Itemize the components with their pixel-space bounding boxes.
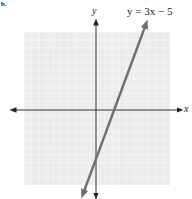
coordinate-plane <box>0 0 192 199</box>
part-label: b. <box>1 1 7 8</box>
y-axis-label: y <box>92 6 96 16</box>
grid-background <box>24 32 170 185</box>
x-axis-label: x <box>184 104 188 114</box>
equation-label: y = 3x − 5 <box>127 6 172 17</box>
